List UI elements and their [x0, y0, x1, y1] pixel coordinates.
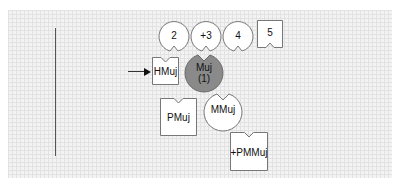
piece-2[interactable]: 2: [158, 20, 190, 54]
piece-sublabel: (1): [184, 73, 224, 84]
piece-label: PMuj: [160, 112, 197, 123]
piece-muj-selected[interactable]: Muj (1): [184, 51, 224, 93]
piece-plus-pmmuj[interactable]: +PMMuj: [230, 132, 268, 171]
vertical-divider-line: [55, 28, 56, 156]
piece-4[interactable]: 4: [222, 20, 254, 54]
piece-mmuj[interactable]: MMuj: [203, 90, 243, 132]
piece-label: 4: [222, 30, 254, 41]
arrow-right-icon: [144, 68, 151, 76]
piece-pmuj[interactable]: PMuj: [160, 98, 197, 136]
piece-label: MMuj: [203, 104, 243, 115]
piece-label: Muj: [184, 62, 224, 73]
piece-label: 2: [158, 30, 190, 41]
piece-label: +3: [190, 30, 222, 41]
piece-hmuj[interactable]: HMuj: [152, 57, 179, 85]
piece-label: HMuj: [152, 66, 179, 77]
piece-label: +PMMuj: [230, 147, 268, 158]
piece-label: 5: [257, 27, 283, 38]
piece-5[interactable]: 5: [257, 20, 283, 50]
piece-plus-3[interactable]: +3: [190, 20, 222, 54]
